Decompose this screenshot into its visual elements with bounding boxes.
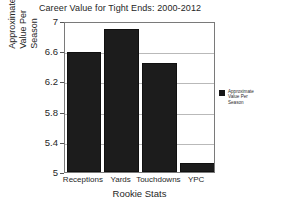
bar-series <box>65 23 214 172</box>
legend-swatch-approximate-value-per-season <box>219 90 225 96</box>
x-axis-title: Rookie Stats <box>64 188 215 199</box>
legend-label-approximate-value-per-season: Approximate Value Per Season <box>228 89 254 105</box>
chart-figure: Career Value for Tight Ends: 2000-2012 A… <box>0 0 283 203</box>
legend: Approximate Value Per Season <box>219 89 254 105</box>
bar <box>142 63 177 172</box>
bar <box>180 163 215 172</box>
y-axis-title: Approximate Value Per Season <box>8 0 38 76</box>
bar <box>104 29 139 172</box>
y-axis-tick-label: 5 <box>20 167 58 178</box>
legend-label-line-3: Season <box>228 100 254 105</box>
y-axis-tick <box>60 173 64 174</box>
y-axis-tick-label: 7 <box>20 16 58 27</box>
y-axis-tick-label: 5.8 <box>20 107 58 118</box>
y-axis-tick-label: 6.6 <box>20 46 58 57</box>
y-axis-tick-label: 6.2 <box>20 76 58 87</box>
x-axis-tick-label: YPC <box>169 175 224 184</box>
bar <box>67 52 102 172</box>
y-axis-title-line-1: Approximate <box>7 0 18 49</box>
y-axis-tick-label: 5.4 <box>20 137 58 148</box>
plot-area <box>64 22 215 173</box>
